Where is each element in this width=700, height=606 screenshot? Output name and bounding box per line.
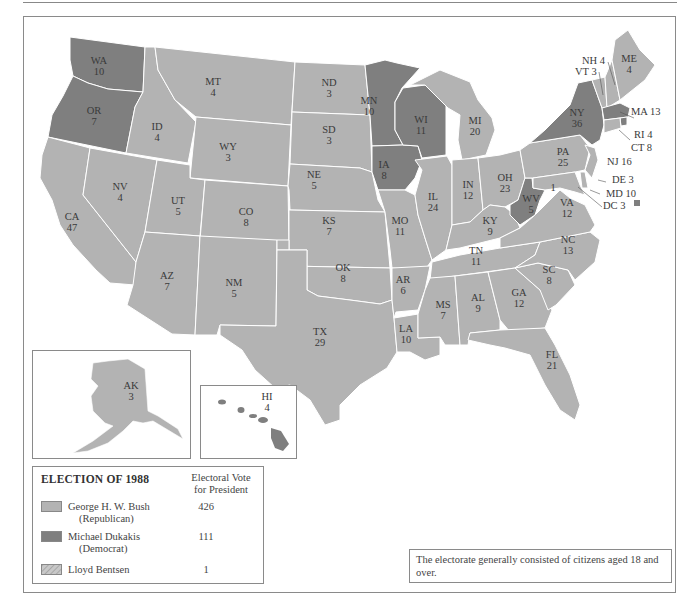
svg-text:FL21: FL21 <box>546 349 558 371</box>
svg-text:RI 4: RI 4 <box>634 129 653 140</box>
svg-text:MA 13: MA 13 <box>631 106 660 117</box>
svg-text:NJ 16: NJ 16 <box>607 156 632 167</box>
svg-text:1: 1 <box>550 182 555 193</box>
legend-column-header: Electoral Vote for President <box>179 472 263 496</box>
legend: ELECTION OF 1988 Electoral Vote for Pres… <box>32 466 264 584</box>
state-PA[interactable] <box>520 135 590 178</box>
alaska-inset: AK3 <box>32 350 191 459</box>
svg-text:IN12: IN12 <box>462 179 473 201</box>
svg-text:NH 4: NH 4 <box>582 55 606 66</box>
legend-votes: 1 <box>171 564 241 576</box>
state-HI[interactable] <box>218 400 289 452</box>
state-DE[interactable] <box>580 172 588 188</box>
svg-text:MI20: MI20 <box>469 115 482 137</box>
hawaii-inset: HI4 <box>200 385 297 459</box>
legend-title: ELECTION OF 1988 <box>41 473 149 485</box>
legend-votes: 426 <box>171 501 241 513</box>
state-WY[interactable] <box>190 117 291 186</box>
svg-text:IL24: IL24 <box>428 191 439 213</box>
democrat-swatch <box>41 531 62 542</box>
svg-text:HI4: HI4 <box>261 391 273 413</box>
state-NY[interactable] <box>530 80 604 145</box>
republican-swatch <box>41 501 62 512</box>
state-NE[interactable] <box>288 164 385 212</box>
svg-text:CT 8: CT 8 <box>631 142 652 153</box>
svg-text:VT 3: VT 3 <box>575 66 597 77</box>
svg-text:NC13: NC13 <box>561 234 576 256</box>
svg-text:PA25: PA25 <box>557 146 570 168</box>
dc-marker <box>634 200 640 206</box>
state-CT[interactable] <box>604 118 621 133</box>
state-ME[interactable] <box>612 30 655 100</box>
svg-text:VA12: VA12 <box>560 197 574 219</box>
state-FL[interactable] <box>468 328 580 420</box>
state-AK[interactable] <box>73 359 183 453</box>
svg-text:DE 3: DE 3 <box>612 174 634 185</box>
svg-text:MD 10: MD 10 <box>606 188 636 199</box>
hatched-swatch <box>41 564 62 575</box>
legend-votes: 111 <box>171 531 241 543</box>
electorate-note: The electorate generally consisted of ci… <box>409 549 672 583</box>
svg-text:DC 3: DC 3 <box>603 200 625 211</box>
